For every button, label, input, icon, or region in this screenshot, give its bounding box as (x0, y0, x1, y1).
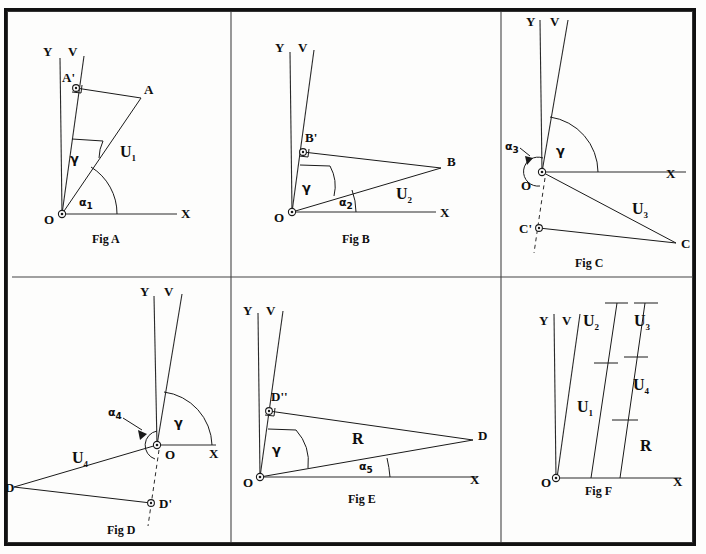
fig-c-label-gamma: γ (556, 143, 565, 158)
fig-b-vector-ob (292, 168, 441, 212)
fig-e-label-x: X (470, 472, 480, 487)
fig-a-label-gamma: γ (70, 151, 79, 166)
fig-e-label-point-d: D (478, 428, 487, 443)
diagram-sheet: Y V X O A A' U1 γ α1 Fig A (0, 0, 706, 554)
fig-a-label-x: X (181, 206, 191, 221)
fig-a-node-aprime-dot (75, 87, 77, 89)
fig-b-label-y: Y (275, 40, 285, 55)
fig-c-dashed-line (534, 178, 545, 253)
fig-d-label-point-dprime: D' (159, 496, 172, 511)
fig-b-label-x: X (440, 205, 450, 220)
fig-c-label-alpha3: α3 (505, 140, 519, 155)
fig-b-node-bprime-dot (302, 151, 304, 153)
fig-d-segment-d-dprime (14, 487, 151, 503)
fig-f-label-u1: U1 (577, 398, 594, 418)
fig-c-label-origin: O (521, 178, 531, 193)
fig-a-vector-label: U1 (120, 143, 137, 163)
fig-d-alpha4-leader (123, 418, 142, 430)
fig-f-label-origin: O (541, 475, 551, 490)
fig-c-vector-oc (542, 172, 676, 243)
fig-a-origin-dot (61, 213, 64, 216)
fig-d: Y V X O D D' U4 γ α4 Fig D (5, 284, 219, 537)
fig-d-label-v: V (164, 284, 174, 299)
fig-c-label-x: X (666, 166, 676, 181)
fig-f-origin-dot (555, 477, 558, 480)
fig-c-y-axis (540, 20, 542, 172)
fig-e-label-gamma: γ (272, 442, 281, 457)
fig-c-label-v: V (550, 14, 560, 29)
fig-f-label-x: X (673, 474, 683, 489)
panel-dividers (12, 12, 693, 542)
fig-b-vector-label: U2 (396, 185, 413, 205)
fig-b-label-v: V (298, 40, 308, 55)
fig-f-label-u2: U2 (583, 312, 600, 332)
fig-d-origin-dot (156, 444, 159, 447)
fig-d-dashed-line (148, 450, 159, 526)
fig-a: Y V X O A A' U1 γ α1 Fig A (43, 44, 191, 246)
fig-b-y-axis (290, 52, 292, 212)
fig-e-node-ddprime-dot (268, 410, 270, 412)
fig-f-y-axis (554, 314, 556, 478)
fig-c-alpha3-leader (520, 148, 530, 156)
fig-c-node-cprime-dot (538, 227, 540, 229)
fig-f-label-u4: U4 (633, 376, 650, 396)
fig-a-label-v: V (68, 44, 78, 59)
fig-e: Y V X O D D'' R γ α5 Fig E (243, 303, 487, 506)
fig-d-label-alpha4: α4 (108, 406, 122, 421)
fig-b-label-point-b: B (447, 154, 456, 169)
fig-d-caption: Fig D (107, 523, 136, 537)
fig-e-vector-label: R (352, 430, 364, 447)
fig-e-label-point-ddprime: D'' (271, 389, 288, 404)
fig-b: Y V X O B B' U2 γ α2 Fig B (274, 40, 456, 246)
fig-d-label-x: X (209, 446, 219, 461)
fig-d-label-origin: O (165, 447, 175, 462)
fig-c-vector-label: U3 (632, 200, 649, 220)
fig-a-label-alpha1: α1 (79, 196, 93, 211)
fig-b-label-gamma: γ (302, 180, 311, 195)
fig-d-label-y: Y (140, 284, 150, 299)
diagram-canvas: Y V X O A A' U1 γ α1 Fig A (0, 0, 706, 554)
fig-a-arc-alpha1 (91, 167, 117, 214)
fig-d-y-axis (154, 296, 157, 445)
fig-b-label-point-bprime: B' (305, 130, 317, 145)
fig-b-origin-dot (291, 211, 294, 214)
fig-e-origin-dot (259, 476, 262, 479)
fig-a-segment-a-aprime (76, 88, 141, 98)
fig-f-caption: Fig F (585, 484, 612, 498)
fig-b-label-origin: O (274, 210, 284, 225)
fig-c: Y V X O C C' U3 γ α3 Fig C (505, 14, 690, 270)
fig-b-label-alpha2: α2 (339, 196, 353, 211)
fig-e-arc-alpha5 (387, 458, 390, 477)
fig-c-label-y: Y (526, 14, 536, 29)
fig-d-node-dprime-dot (150, 502, 152, 504)
fig-d-label-point-d: D (5, 480, 14, 495)
fig-e-label-origin: O (243, 475, 253, 490)
fig-d-label-gamma: γ (174, 415, 183, 430)
fig-a-label-origin: O (44, 212, 54, 227)
fig-e-label-alpha5: α5 (359, 460, 373, 475)
fig-c-caption: Fig C (575, 256, 603, 270)
fig-f-label-y: Y (539, 313, 549, 328)
fig-d-vector-label: U4 (72, 449, 89, 469)
fig-d-alpha4-arrowhead (138, 430, 147, 440)
fig-c-origin-dot (541, 171, 544, 174)
fig-f-label-r: R (640, 437, 652, 454)
fig-a-caption: Fig A (92, 232, 120, 246)
fig-f-label-u3: U3 (634, 312, 651, 332)
fig-c-label-point-cprime: C' (519, 221, 532, 236)
fig-f-label-v: V (562, 313, 572, 328)
fig-f-v-axis (557, 314, 580, 478)
fig-a-label-point-aprime: A' (62, 70, 75, 85)
fig-e-segment-d-ddprime (269, 411, 473, 440)
fig-e-label-y: Y (243, 303, 253, 318)
fig-a-label-point-a: A (144, 82, 154, 97)
fig-e-label-v: V (266, 303, 276, 318)
fig-b-caption: Fig B (342, 232, 370, 246)
fig-f: Y V X O U2 U3 U4 U1 R Fig F (539, 303, 683, 498)
fig-e-y-axis (258, 313, 260, 477)
fig-c-segment-c-cprime (539, 228, 676, 243)
fig-c-label-point-c: C (681, 236, 690, 251)
fig-d-arc-gamma (164, 392, 212, 445)
fig-e-caption: Fig E (348, 492, 376, 506)
fig-a-label-y: Y (43, 44, 53, 59)
